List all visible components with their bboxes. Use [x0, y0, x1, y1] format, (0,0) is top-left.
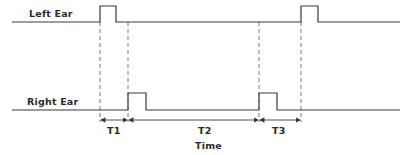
t2-label: T2	[198, 125, 212, 136]
right-ear-label: Right Ear	[27, 96, 78, 107]
time-axis-label: Time	[195, 140, 222, 151]
dashed-reference-lines	[100, 22, 301, 122]
t1-label: T1	[107, 125, 121, 136]
left-ear-label: Left Ear	[29, 8, 73, 19]
t3-label: T3	[272, 125, 286, 136]
